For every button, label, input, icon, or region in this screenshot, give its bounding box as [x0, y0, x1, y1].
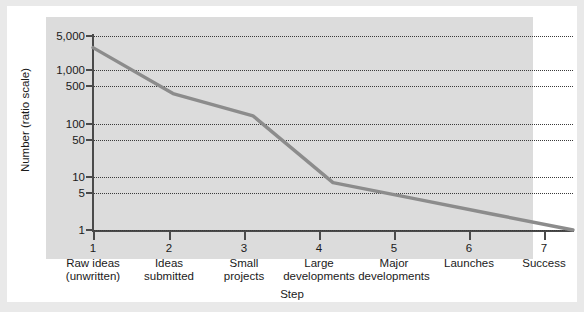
x-axis-tick — [93, 232, 95, 240]
y-tick-label: 5,000 — [56, 30, 85, 42]
x-tick-label: 7 Success — [489, 242, 584, 270]
x-axis-title: Step — [7, 288, 577, 300]
x-axis-tick — [244, 232, 246, 240]
data-series-line — [93, 36, 573, 230]
y-tick-label: 10 — [72, 171, 85, 183]
y-tick-label: 5 — [79, 187, 85, 199]
plot-area — [93, 36, 573, 230]
x-axis-tick — [169, 232, 171, 240]
x-axis-tick — [469, 232, 471, 240]
y-axis-tick-labels: 5,000 1,000 500 100 50 10 5 1 — [39, 36, 85, 230]
y-tick-label: 500 — [66, 80, 85, 92]
figure-container: Number (ratio scale) 5,000 1,000 500 100… — [0, 0, 584, 312]
gridline — [93, 230, 573, 231]
y-tick-label: 50 — [72, 134, 85, 146]
x-tick-caption-line2: developments — [339, 270, 449, 284]
x-tick-caption-line1: Success — [489, 257, 584, 271]
x-axis-ticks — [93, 232, 573, 242]
chart-card: Number (ratio scale) 5,000 1,000 500 100… — [7, 6, 577, 302]
y-tick-label: 100 — [66, 118, 85, 130]
x-axis-tick — [394, 232, 396, 240]
x-axis-tick — [319, 232, 321, 240]
y-tick-label: 1,000 — [56, 64, 85, 76]
y-tick-label: 1 — [79, 224, 85, 236]
y-axis-title: Number (ratio scale) — [19, 40, 31, 200]
x-axis-tick — [544, 232, 546, 240]
x-tick-number: 7 — [489, 242, 584, 256]
x-axis-tick-labels: 1 Raw ideas (unwritten) 2 Ideas submitte… — [93, 242, 573, 288]
